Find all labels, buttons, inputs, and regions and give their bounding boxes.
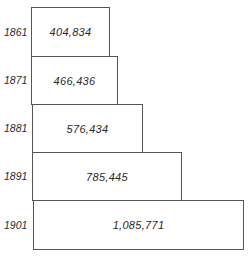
bar-1901: 1,085,771: [33, 200, 244, 250]
year-label: 1891: [4, 170, 30, 182]
bar-1881: 576,434: [32, 104, 143, 153]
bar-value-label: 1,085,771: [113, 219, 165, 231]
bar-1861: 404,834: [31, 7, 110, 57]
bar-value-label: 404,834: [50, 26, 92, 38]
year-label: 1861: [4, 26, 30, 38]
year-label: 1871: [4, 74, 30, 86]
bar-value-label: 576,434: [67, 123, 109, 135]
bar-value-label: 785,445: [86, 171, 128, 183]
year-label: 1881: [4, 122, 30, 134]
year-label: 1901: [4, 219, 30, 231]
bar-1891: 785,445: [32, 152, 182, 201]
bar-1871: 466,436: [31, 56, 118, 105]
bar-value-label: 466,436: [54, 75, 96, 87]
